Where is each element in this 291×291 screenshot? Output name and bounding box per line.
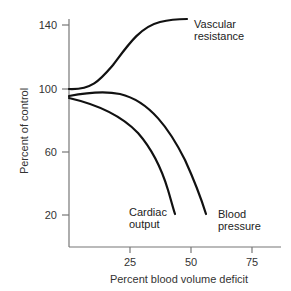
y-tick-label: 20 [45,209,57,221]
y-tick-label: 140 [39,19,57,31]
x-tick-label: 50 [185,256,197,268]
x-tick-label: 25 [124,256,136,268]
x-ticks: 25 50 75 [124,247,258,268]
vascular-resistance-label: Vascular resistance [194,18,244,42]
blood-pressure-label: Blood pressure [218,208,261,232]
svg-text:Vascular: Vascular [194,18,236,30]
y-tick-label: 100 [39,83,57,95]
svg-text:Blood: Blood [218,208,246,220]
chart: 140 100 60 20 25 50 75 Percent blood vol… [0,0,291,291]
svg-text:resistance: resistance [194,30,244,42]
y-axis-label: Percent of control [18,88,30,174]
blood-pressure-curve [69,93,206,214]
y-ticks: 140 100 60 20 [39,19,69,221]
cardiac-output-label: Cardiac output [129,206,167,230]
svg-text:pressure: pressure [218,220,261,232]
x-tick-label: 75 [246,256,258,268]
x-axis-label: Percent blood volume deficit [110,273,248,285]
svg-text:Cardiac: Cardiac [129,206,167,218]
cardiac-output-curve [69,98,175,214]
svg-text:output: output [129,218,160,230]
y-tick-label: 60 [45,146,57,158]
vascular-resistance-curve [69,19,187,89]
